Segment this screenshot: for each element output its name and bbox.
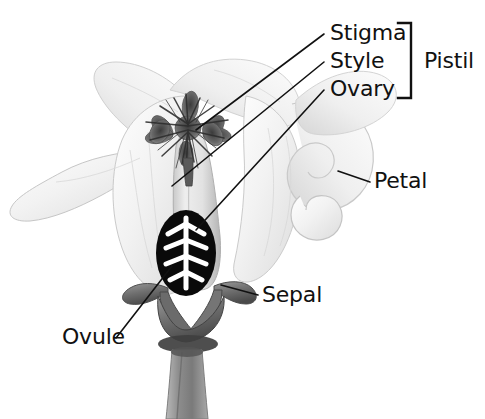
petal-right-curl-inner <box>291 196 342 240</box>
label-sepal: Sepal <box>262 284 322 306</box>
flower-anatomy-diagram: Stigma Style Ovary Pistil Petal Sepal Ov… <box>0 0 485 419</box>
stem <box>166 347 208 419</box>
label-ovary: Ovary <box>330 78 395 100</box>
label-ovule: Ovule <box>62 326 125 348</box>
label-petal: Petal <box>374 170 427 192</box>
flower-illustration <box>0 0 485 419</box>
label-stigma: Stigma <box>330 22 406 44</box>
label-pistil: Pistil <box>424 50 474 72</box>
ovary <box>156 210 216 296</box>
label-style: Style <box>330 50 384 72</box>
